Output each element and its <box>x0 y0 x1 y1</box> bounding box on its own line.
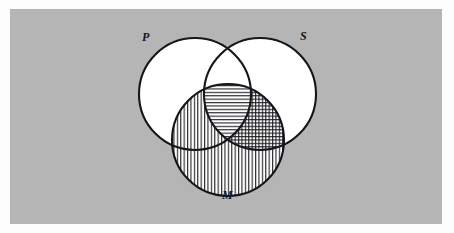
figure-stage: P S M <box>0 0 454 233</box>
circle-label-s: S <box>300 29 307 44</box>
circle-label-p: P <box>142 30 150 45</box>
circle-label-m: M <box>222 188 233 203</box>
